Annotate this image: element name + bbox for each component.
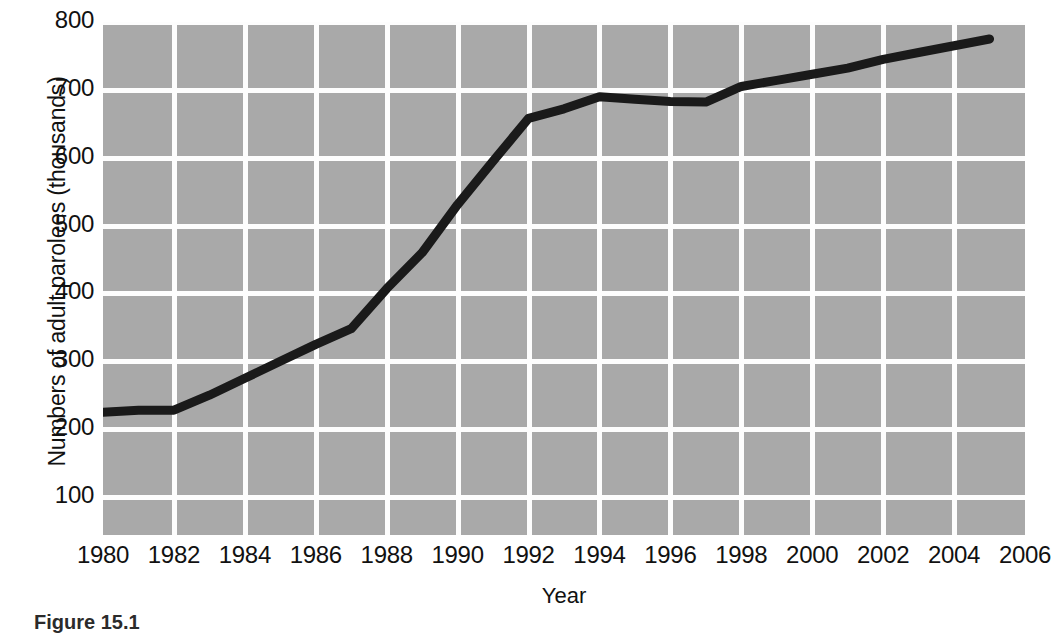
y-axis-tick-label: 100 [10, 481, 94, 509]
series-line-adult-parolees [103, 39, 990, 412]
y-axis-tick-label: 300 [10, 345, 94, 373]
y-axis-tick-label-group: 100200300400500600700800 [0, 0, 94, 627]
y-axis-tick-label: 800 [10, 6, 94, 34]
x-axis-title: Year [103, 583, 1025, 609]
y-axis-tick-label: 700 [10, 74, 94, 102]
y-axis-tick-label: 500 [10, 210, 94, 238]
x-axis-tick-label: 2006 [965, 541, 1062, 569]
data-line-chart [103, 22, 1025, 535]
y-axis-tick-label: 200 [10, 413, 94, 441]
figure-caption: Figure 15.1 [34, 611, 140, 634]
y-axis-tick-label: 600 [10, 142, 94, 170]
x-axis-tick-label-group: 1980198219841986198819901992199419961998… [0, 541, 1062, 575]
plot-area [103, 22, 1025, 535]
y-axis-tick-label: 400 [10, 277, 94, 305]
